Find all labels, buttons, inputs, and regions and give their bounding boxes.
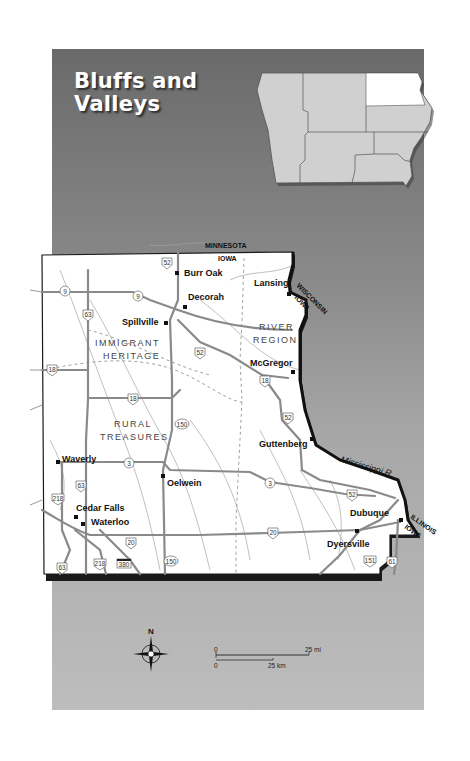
route-shield-9: 9 — [60, 286, 70, 296]
region-immigrant-line1: IMMIGRANT — [95, 338, 160, 348]
city-marker-lansing — [287, 292, 291, 296]
route-shield-150: 150 — [164, 556, 178, 566]
scale-mi-label: 25 mi — [305, 646, 321, 653]
city-marker-dubuque — [399, 518, 403, 522]
state-label-iowa-north: IOWA — [218, 255, 237, 262]
city-guttenberg: Guttenberg — [259, 439, 308, 449]
svg-text:3: 3 — [127, 460, 131, 467]
city-waterloo: Waterloo — [91, 517, 130, 527]
state-label-minnesota: MINNESOTA — [205, 242, 246, 249]
city-marker-decorah — [183, 305, 187, 309]
compass-rose-icon: N — [133, 627, 169, 672]
svg-text:18: 18 — [261, 377, 269, 384]
city-waverly: Waverly — [62, 454, 96, 464]
map-canvas: MINNESOTA IOWA WISCONSIN IOWA ILLINOIS I… — [0, 0, 470, 761]
svg-text:61: 61 — [388, 558, 396, 565]
route-shield-3: 3 — [124, 458, 134, 468]
city-marker-mcgregor — [291, 370, 295, 374]
scale-km-label: 25 km — [268, 662, 286, 669]
city-marker-spillville — [164, 321, 168, 325]
svg-text:9: 9 — [63, 288, 67, 295]
svg-text:52: 52 — [284, 414, 292, 421]
city-marker-dyersville — [355, 529, 359, 533]
city-cedar-falls: Cedar Falls — [76, 503, 125, 513]
city-dubuque: Dubuque — [350, 508, 389, 518]
scale-mi-zero: 0 — [214, 646, 218, 653]
svg-text:9: 9 — [136, 293, 140, 300]
compass-north-label: N — [148, 627, 154, 636]
region-immigrant-line2: HERITAGE — [103, 351, 160, 361]
city-marker-oelwein — [161, 474, 165, 478]
svg-text:18: 18 — [129, 395, 137, 402]
svg-text:151: 151 — [365, 557, 376, 564]
city-spillville: Spillville — [122, 317, 159, 327]
city-lansing: Lansing — [254, 278, 289, 288]
city-oelwein: Oelwein — [167, 478, 202, 488]
city-decorah: Decorah — [188, 292, 224, 302]
region-river-line2: REGION — [253, 335, 298, 345]
city-marker-burr-oak — [175, 271, 179, 275]
route-shield-3: 3 — [265, 478, 275, 488]
city-dyersville: Dyersville — [327, 539, 370, 549]
route-shield-380: 380 — [117, 559, 131, 568]
svg-text:380: 380 — [119, 561, 130, 568]
svg-text:52: 52 — [348, 491, 356, 498]
city-burr-oak: Burr Oak — [184, 268, 224, 278]
highlighted-region — [366, 73, 425, 106]
svg-text:52: 52 — [163, 259, 171, 266]
svg-text:3: 3 — [268, 480, 272, 487]
main-map: MINNESOTA IOWA WISCONSIN IOWA ILLINOIS I… — [30, 242, 438, 581]
scale-km-zero: 0 — [214, 662, 218, 669]
city-marker-cedar-falls — [74, 515, 78, 519]
scale-bar: 0 25 mi 0 25 km — [214, 646, 321, 669]
svg-text:150: 150 — [177, 421, 188, 428]
route-shield-150: 150 — [175, 419, 189, 429]
region-rural-line2: TREASURES — [100, 432, 169, 442]
svg-text:20: 20 — [127, 539, 135, 546]
svg-text:63: 63 — [58, 564, 66, 571]
svg-text:20: 20 — [269, 529, 277, 536]
svg-text:63: 63 — [84, 311, 92, 318]
city-marker-waverly — [56, 460, 60, 464]
svg-text:63: 63 — [77, 482, 85, 489]
inset-iowa-map — [257, 73, 434, 189]
svg-text:52: 52 — [196, 349, 204, 356]
city-marker-waterloo — [81, 522, 85, 526]
route-shield-9: 9 — [133, 291, 143, 301]
svg-text:150: 150 — [166, 558, 177, 565]
svg-text:218: 218 — [53, 495, 64, 502]
svg-text:18: 18 — [48, 366, 56, 373]
region-river-line1: RIVER — [259, 322, 294, 332]
city-marker-guttenberg — [310, 437, 314, 441]
region-rural-line1: RURAL — [114, 419, 152, 429]
city-mcgregor: McGregor — [250, 358, 293, 368]
svg-text:218: 218 — [95, 560, 106, 567]
